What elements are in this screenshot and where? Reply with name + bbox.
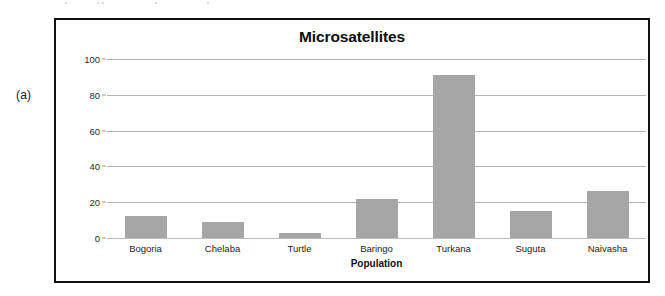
scan-noise-artifact [60,1,240,5]
y-tick-label: 0 [95,233,100,244]
bars-group: BogoriaChelabaTurtleBaringoTurkanaSuguta… [107,59,646,238]
bar-slot: Turkana [415,59,492,238]
y-tick-mark [102,94,106,95]
y-tick-mark [102,166,106,167]
y-tick-mark [102,202,106,203]
bar[interactable] [510,211,552,238]
bar-slot: Chelaba [184,59,261,238]
y-tick-label: 80 [89,89,100,100]
bar-slot: Naivasha [569,59,646,238]
bar-slot: Bogoria [107,59,184,238]
figure-panel: (a) Microsatellites No. of private allel… [0,0,665,296]
chart-title: Microsatellites [56,28,648,46]
y-tick-mark [102,59,106,60]
y-tick-mark [102,238,106,239]
x-tick-label: Bogoria [129,243,162,254]
bar-slot: Suguta [492,59,569,238]
x-tick-label: Turkana [436,243,471,254]
bar[interactable] [125,216,167,238]
y-tick-label: 100 [84,54,100,65]
plot-area: 020406080100 BogoriaChelabaTurtleBaringo… [107,59,646,238]
bar[interactable] [356,199,398,238]
bar[interactable] [279,233,321,238]
gridline: 0 [107,238,646,239]
bar[interactable] [433,75,475,238]
y-tick-label: 60 [89,125,100,136]
x-axis-title: Population [107,258,646,269]
panel-letter-label: (a) [16,88,31,102]
bar[interactable] [587,191,629,238]
chart-frame: Microsatellites No. of private alleles 0… [54,18,650,283]
y-tick-label: 20 [89,197,100,208]
bar[interactable] [202,222,244,238]
y-tick-label: 40 [89,161,100,172]
x-tick-label: Chelaba [205,243,240,254]
x-tick-label: Baringo [360,243,393,254]
y-tick-mark [102,130,106,131]
x-tick-label: Turtle [288,243,312,254]
bar-slot: Turtle [261,59,338,238]
x-tick-label: Suguta [515,243,545,254]
bar-slot: Baringo [338,59,415,238]
x-tick-label: Naivasha [588,243,628,254]
